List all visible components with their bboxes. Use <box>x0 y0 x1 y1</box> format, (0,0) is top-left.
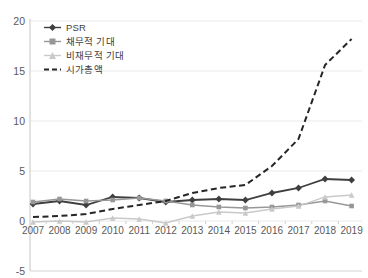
legend-marker-diamond-icon <box>44 23 61 32</box>
x-axis-tick-label: 2019 <box>340 225 363 236</box>
y-axis-tick-label: 15 <box>13 65 25 77</box>
x-axis-tick-label: 2010 <box>102 225 125 236</box>
y-axis-tick-label: 5 <box>19 165 25 177</box>
x-axis-tick-label: 2017 <box>287 225 310 236</box>
x-axis-tick-label: 2015 <box>234 225 257 236</box>
legend-label: 채무적 기대 <box>66 36 115 47</box>
legend-item-nondebt-expectation: 비재무적 기대 <box>44 50 124 61</box>
x-axis-tick-label: 2008 <box>48 225 71 236</box>
x-axis-tick-label: 2009 <box>75 225 98 236</box>
legend-label: 비재무적 기대 <box>66 50 124 61</box>
x-axis-tick-label: 2012 <box>155 225 178 236</box>
legend-marker-square-icon <box>44 37 61 46</box>
line-chart-figure: -505101520200720082009201020112012201320… <box>0 0 368 278</box>
x-axis-tick-label: 2016 <box>261 225 284 236</box>
x-axis-tick-label: 2007 <box>22 225 45 236</box>
legend-label: 시가총액 <box>66 64 103 75</box>
legend-item-market-cap: 시가총액 <box>44 64 124 75</box>
x-axis-tick-label: 2011 <box>128 225 150 236</box>
y-axis-tick-label: 20 <box>13 15 25 27</box>
x-axis-tick-label: 2013 <box>181 225 204 236</box>
y-axis-tick-label: 10 <box>13 115 25 127</box>
legend-marker-dashed-line-icon <box>44 65 61 74</box>
legend-marker-triangle-icon <box>44 51 61 60</box>
x-axis-tick-label: 2014 <box>208 225 231 236</box>
legend-item-debt-expectation: 채무적 기대 <box>44 36 124 47</box>
x-axis-tick-label: 2018 <box>314 225 337 236</box>
chart-legend: PSR 채무적 기대 비재무적 기대 시가총액 <box>44 22 124 75</box>
y-axis-tick-label: -5 <box>16 265 25 277</box>
legend-label: PSR <box>66 22 86 33</box>
legend-item-psr: PSR <box>44 22 124 33</box>
